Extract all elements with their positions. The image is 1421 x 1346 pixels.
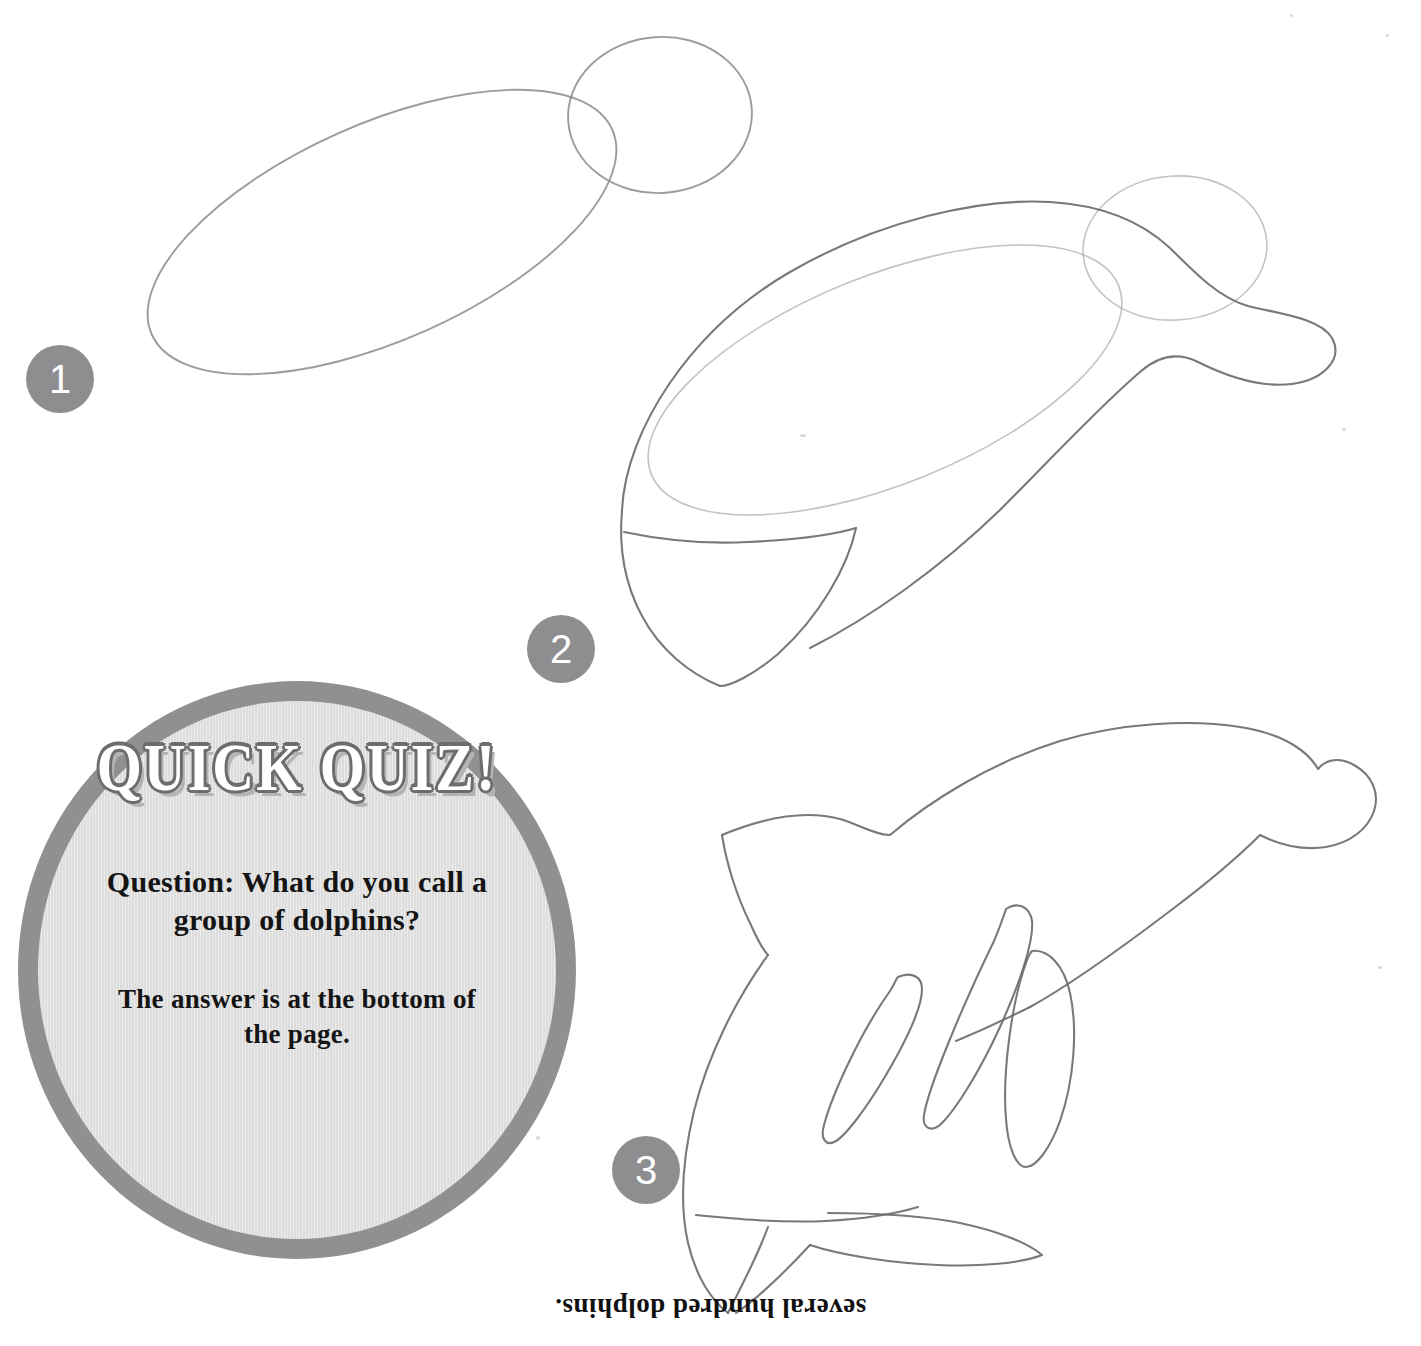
quiz-title: QUICK QUIZ! [97,733,498,801]
step-badge-3: 3 [612,1136,680,1204]
page-speck [1378,966,1382,969]
quiz-question-text: Question: What do you call a group of do… [82,863,512,940]
step-number-1: 1 [49,359,71,399]
drawing-tutorial-page: 1 2 3 QUICK QUIZ! Question: What do you … [0,0,1421,1346]
page-speck [536,1136,540,1140]
step-number-3: 3 [635,1150,657,1190]
step-3-drawing [650,715,1400,1315]
step-2-drawing [580,180,1360,690]
page-speck [800,434,806,437]
step-1-drawing [100,10,800,430]
step-number-2: 2 [550,629,572,669]
quiz-hint-text: The answer is at the bottom of the page. [97,982,497,1053]
step-badge-2: 2 [527,615,595,683]
page-speck [1290,14,1293,17]
quick-quiz-bubble: QUICK QUIZ! Question: What do you call a… [18,681,576,1259]
page-speck [1342,428,1346,431]
quick-quiz-inner: QUICK QUIZ! Question: What do you call a… [38,701,556,1239]
step-badge-1: 1 [26,345,94,413]
page-speck [1386,34,1389,37]
quiz-answer-upside-down: several hundred dolphins. [0,1292,1421,1323]
